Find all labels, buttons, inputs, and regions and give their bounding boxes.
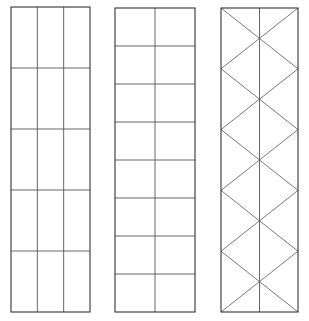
diagram-canvas <box>0 0 309 321</box>
middle-panel <box>115 8 195 312</box>
right-panel <box>221 8 298 312</box>
left-panel <box>11 7 90 312</box>
panel-outline <box>11 7 90 312</box>
